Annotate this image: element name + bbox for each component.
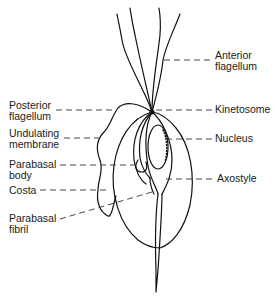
trichomonas-diagram bbox=[0, 0, 275, 303]
label-anterior-flagellum: Anterior flagellum bbox=[215, 50, 257, 72]
anterior-flagella bbox=[117, 8, 180, 112]
label-nucleus: Nucleus bbox=[215, 133, 253, 144]
nucleus bbox=[148, 125, 168, 169]
label-axostyle: Axostyle bbox=[217, 173, 257, 184]
label-undulating-membrane: Undulating membrane bbox=[9, 128, 59, 150]
label-parabasal-fibril: Parabasal fibril bbox=[9, 213, 56, 235]
label-posterior-flagellum: Posterior flagellum bbox=[9, 100, 51, 122]
label-parabasal-body: Parabasal body bbox=[9, 159, 56, 181]
label-costa: Costa bbox=[9, 185, 36, 196]
axostyle bbox=[156, 194, 162, 292]
label-kinetosome: Kinetosome bbox=[215, 104, 270, 115]
